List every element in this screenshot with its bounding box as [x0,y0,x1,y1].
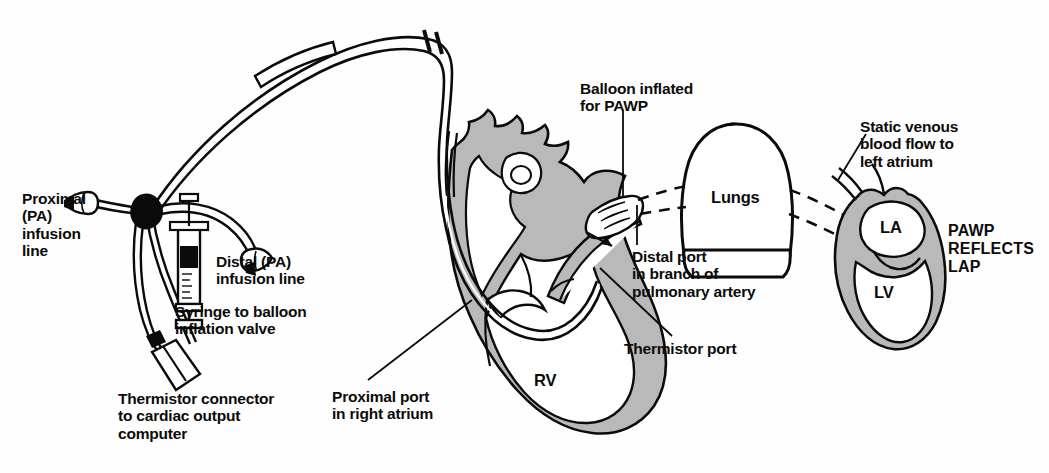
label-pawp-reflects-lap: PAWP REFLECTS LAP [948,222,1034,276]
left-heart-illustration [832,164,945,349]
label-syringe-to-balloon-inflation-valve: Syringe to balloon inflation valve [175,303,307,338]
label-thermistor-port: Thermistor port [624,340,736,357]
aortic-valve [511,166,531,184]
anatomy-label-left-ventricle: LV [874,283,893,301]
syringe-thumb-press [180,194,198,201]
label-thermistor-connector: Thermistor connector to cardiac output c… [118,390,274,442]
diagram-canvas: Proximal (PA) infusion line Distal (PA) … [0,0,1049,473]
flow-pa-to-lung-upper [638,186,686,200]
thermistor-connector-illustration [146,330,200,390]
syringe-plunger-fill [180,246,198,268]
flow-pa-to-lung-lower [640,207,686,214]
anatomy-label-lungs: Lungs [711,188,760,206]
label-balloon-inflated-for-pawp: Balloon inflated for PAWP [580,80,693,115]
label-proximal-port-right-atrium: Proximal port in right atrium [332,388,433,423]
label-proximal-pa-infusion-line: Proximal (PA) infusion line [22,190,86,259]
leader-proximal-port [368,300,472,380]
anatomy-label-left-atrium: LA [880,218,902,236]
label-distal-pa-infusion-line: Distal (PA) infusion line [216,253,305,288]
label-static-venous-blood-flow: Static venous blood flow to left atrium [860,118,958,170]
label-distal-port-pulmonary-artery: Distal port in branch of pulmonary arter… [632,248,755,300]
anatomy-label-right-ventricle: RV [534,371,556,389]
distal-infusion-tube-2 [161,212,250,258]
